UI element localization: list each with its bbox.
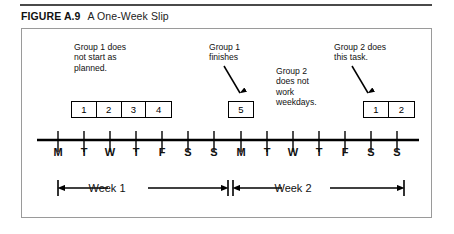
taskbar-cell: 4 [146, 102, 171, 117]
header-rule [20, 4, 432, 6]
day-label: S [206, 146, 222, 158]
day-label: M [50, 146, 66, 158]
taskbar-group1-finish: 5 [228, 101, 254, 118]
taskbar-cell: 2 [97, 102, 122, 117]
taskbar-cell: 1 [364, 102, 389, 117]
figure-title: A One-Week Slip [88, 10, 169, 22]
taskbar-cell: 3 [122, 102, 147, 117]
day-label: T [76, 146, 92, 158]
taskbar-group2-work: 1 2 [363, 101, 415, 118]
day-label: T [128, 146, 144, 158]
week-label-2: Week 2 [258, 182, 328, 194]
day-label: T [311, 146, 327, 158]
taskbar-group1-work: 1 2 3 4 [71, 101, 172, 118]
day-label: S [180, 146, 196, 158]
day-label: W [102, 146, 118, 158]
note-group1-finishes: Group 1 finishes [209, 42, 240, 63]
day-label: S [389, 146, 405, 158]
note-group2-does-not-work-weekdays: Group 2 does not work weekdays. [276, 66, 317, 108]
taskbar-cell: 1 [72, 102, 97, 117]
taskbar-cell: 5 [229, 102, 253, 117]
taskbar-cell: 2 [389, 102, 414, 117]
day-label: T [259, 146, 275, 158]
note-group2-does-this-task: Group 2 does this task. [334, 42, 386, 63]
day-label: M [233, 146, 249, 158]
day-label: S [363, 146, 379, 158]
figure-caption: FIGURE A.9A One-Week Slip [21, 10, 169, 22]
week-label-1: Week 1 [72, 182, 142, 194]
note-group1-does-not-start: Group 1 does not start as planned. [74, 42, 126, 73]
figure-label: FIGURE A.9 [21, 10, 81, 22]
day-label: F [154, 146, 170, 158]
day-label: W [285, 146, 301, 158]
day-label: F [337, 146, 353, 158]
